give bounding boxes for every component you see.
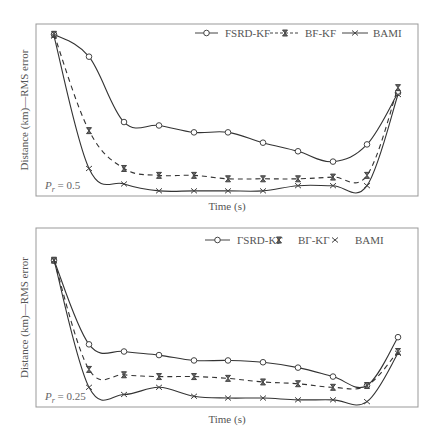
circle-marker-icon <box>191 130 197 136</box>
legend-label: BAMI <box>373 27 402 39</box>
hourglass-marker-icon <box>396 349 401 355</box>
circle-marker-icon <box>156 352 162 358</box>
plot-frame <box>36 24 418 196</box>
pr-annotation: Pr = 0.5 <box>44 179 81 194</box>
x-marker-icon <box>395 351 401 356</box>
hourglass-marker-icon <box>365 383 370 389</box>
chart-top: FSRD-KFBF-KFBAMITime (s)Distance (km)—RM… <box>0 0 441 220</box>
x-marker-icon <box>295 397 301 402</box>
x-marker-icon <box>364 399 370 404</box>
x-axis-label: Time (s) <box>208 200 246 213</box>
legend-label: FSRD-KF <box>225 27 270 39</box>
circle-marker-icon <box>260 359 266 365</box>
hourglass-marker-icon <box>396 85 401 91</box>
series-2 <box>51 258 401 405</box>
series-0 <box>51 257 401 388</box>
series-line <box>54 36 398 193</box>
hourglass-marker-icon <box>122 372 127 378</box>
circle-marker-icon <box>204 30 210 36</box>
circle-marker-icon <box>364 142 370 148</box>
circle-marker-icon <box>121 119 127 125</box>
circle-marker-icon <box>86 54 92 60</box>
hourglass-marker-icon <box>261 176 266 182</box>
legend-label: BAMI <box>355 234 384 246</box>
circle-marker-icon <box>86 342 92 348</box>
circle-marker-icon <box>225 358 231 364</box>
x-axis-label: Time (s) <box>208 413 246 426</box>
legend: ΓSRD-KΓBΓ-KΓBAMI <box>205 234 384 246</box>
x-marker-icon <box>86 166 92 171</box>
series-line <box>54 260 398 387</box>
x-marker-icon <box>156 385 162 390</box>
series-line <box>54 260 398 405</box>
x-marker-icon <box>51 258 57 263</box>
circle-marker-icon <box>156 123 162 129</box>
x-marker-icon <box>330 397 336 402</box>
x-marker-icon <box>332 238 338 243</box>
hourglass-marker-icon <box>157 374 162 380</box>
hourglass-marker-icon <box>87 128 92 134</box>
circle-marker-icon <box>330 159 336 165</box>
series-line <box>54 34 398 183</box>
series-1 <box>52 257 401 390</box>
hourglass-marker-icon <box>122 165 127 171</box>
y-axis-label: Distance (km)—RMS error <box>18 49 31 170</box>
hourglass-marker-icon <box>365 172 370 178</box>
x-marker-icon <box>86 385 92 390</box>
hourglass-marker-icon <box>226 375 231 381</box>
series-line <box>54 34 398 161</box>
hourglass-marker-icon <box>296 381 301 387</box>
series-line <box>54 260 398 389</box>
x-marker-icon <box>191 394 197 399</box>
legend-label: BΓ-KΓ <box>298 234 330 246</box>
x-marker-icon <box>364 183 370 188</box>
hourglass-marker-icon <box>192 374 197 380</box>
hourglass-marker-icon <box>52 257 57 263</box>
circle-marker-icon <box>295 148 301 154</box>
y-axis-label: Distance (km)—RMS error <box>18 257 31 378</box>
series-1 <box>52 31 401 183</box>
circle-marker-icon <box>191 358 197 364</box>
plot-frame <box>36 228 418 407</box>
circle-marker-icon <box>330 374 336 380</box>
series-2 <box>51 34 401 194</box>
circle-marker-icon <box>225 130 231 136</box>
hourglass-marker-icon <box>331 384 336 390</box>
circle-marker-icon <box>260 140 266 146</box>
circle-marker-icon <box>51 257 57 263</box>
chart-top-plot: FSRD-KFBF-KFBAMITime (s)Distance (km)—RM… <box>0 0 441 220</box>
circle-marker-icon <box>121 349 127 355</box>
legend-label: BF-KF <box>305 27 336 39</box>
x-marker-icon <box>225 396 231 401</box>
legend-label: ΓSRD-KΓ <box>237 234 283 246</box>
circle-marker-icon <box>215 237 221 243</box>
circle-marker-icon <box>364 383 370 389</box>
x-marker-icon <box>121 392 127 397</box>
legend: FSRD-KFBF-KFBAMI <box>195 27 402 39</box>
hourglass-marker-icon <box>277 237 282 243</box>
series-0 <box>51 32 401 165</box>
circle-marker-icon <box>295 365 301 371</box>
hourglass-marker-icon <box>87 366 92 372</box>
pr-annotation: Pr = 0.25 <box>44 390 86 405</box>
hourglass-marker-icon <box>261 379 266 385</box>
circle-marker-icon <box>395 334 401 340</box>
x-marker-icon <box>260 396 266 401</box>
